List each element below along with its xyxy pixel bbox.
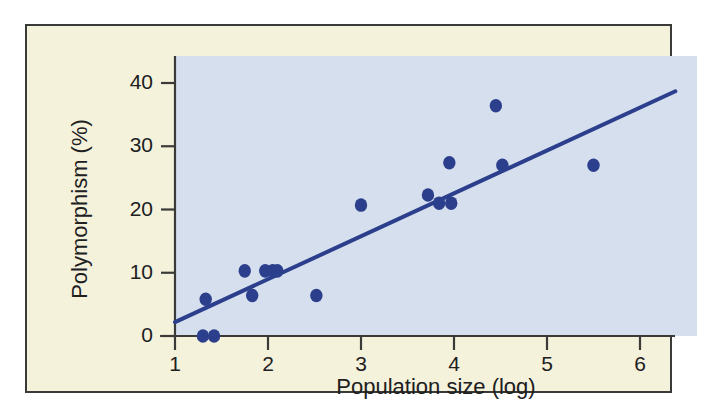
y-axis-ticks bbox=[161, 83, 175, 336]
data-point-marker bbox=[443, 156, 455, 170]
data-point-marker bbox=[422, 188, 434, 202]
figure-frame: 010203040 123456 Population size (log) P… bbox=[25, 24, 672, 393]
y-axis-tick-label: 40 bbox=[107, 70, 153, 94]
x-axis-tick-label: 2 bbox=[248, 352, 288, 376]
y-axis-tick-label: 30 bbox=[107, 133, 153, 157]
x-axis-ticks bbox=[175, 336, 640, 350]
data-point-marker bbox=[445, 196, 457, 210]
y-axis-tick-label: 20 bbox=[107, 197, 153, 221]
x-axis-tick-label: 4 bbox=[434, 352, 474, 376]
data-point-marker bbox=[246, 289, 258, 303]
data-point-marker bbox=[271, 264, 283, 278]
regression-trendline bbox=[175, 91, 675, 322]
data-point-marker bbox=[310, 289, 322, 303]
x-axis-tick-label: 6 bbox=[620, 352, 660, 376]
y-axis-tick-label: 0 bbox=[107, 323, 153, 347]
regression-line bbox=[175, 91, 675, 322]
y-axis-tick-label: 10 bbox=[107, 260, 153, 284]
figure-root: 010203040 123456 Population size (log) P… bbox=[0, 0, 702, 420]
data-point-marker bbox=[239, 264, 251, 278]
data-point-marker bbox=[197, 329, 209, 343]
x-axis-tick-label: 3 bbox=[341, 352, 381, 376]
data-point-marker bbox=[433, 196, 445, 210]
x-axis-tick-label: 1 bbox=[155, 352, 195, 376]
x-axis-tick-label: 5 bbox=[527, 352, 567, 376]
data-point-marker bbox=[496, 158, 508, 172]
data-point-marker bbox=[199, 293, 211, 307]
y-axis-title: Polymorphism (%) bbox=[67, 94, 93, 324]
data-point-marker bbox=[208, 329, 220, 343]
data-point-marker bbox=[490, 99, 502, 113]
data-point-marker bbox=[355, 198, 367, 212]
x-axis-title: Population size (log) bbox=[175, 374, 697, 400]
data-point-marker bbox=[587, 158, 599, 172]
